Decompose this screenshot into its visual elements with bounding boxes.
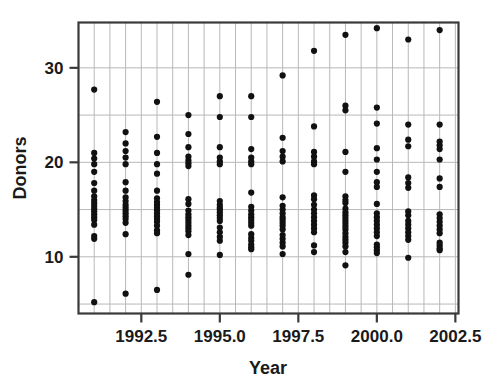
data-point <box>91 188 97 194</box>
data-point <box>248 146 254 152</box>
data-point <box>311 161 317 167</box>
data-point <box>154 150 160 156</box>
data-point <box>405 237 411 243</box>
data-point <box>342 149 348 155</box>
data-point <box>154 230 160 236</box>
data-point <box>405 185 411 191</box>
x-tick-label: 2002.5 <box>429 327 481 346</box>
data-point <box>374 104 380 110</box>
data-point <box>248 223 254 229</box>
data-point <box>437 175 443 181</box>
x-tick-label: 1995.0 <box>194 327 246 346</box>
data-point <box>123 129 129 135</box>
data-point <box>217 238 223 244</box>
data-point <box>185 163 191 169</box>
x-tick-label: 1997.5 <box>272 327 324 346</box>
data-point <box>123 140 129 146</box>
data-point <box>154 188 160 194</box>
data-point <box>123 161 129 167</box>
data-point <box>311 249 317 255</box>
data-point <box>374 145 380 151</box>
data-point <box>374 156 380 162</box>
data-point <box>185 251 191 257</box>
data-point <box>311 48 317 54</box>
data-point <box>437 247 443 253</box>
data-point <box>280 226 286 232</box>
plot-canvas: 1992.51995.01997.52000.02002.5102030 Yea… <box>0 0 499 383</box>
data-point <box>91 86 97 92</box>
data-point <box>185 272 191 278</box>
data-point <box>405 137 411 143</box>
data-point <box>185 201 191 207</box>
data-point <box>342 243 348 249</box>
data-point <box>123 188 129 194</box>
y-tick-label: 20 <box>45 153 64 172</box>
data-point <box>154 287 160 293</box>
data-point <box>248 246 254 252</box>
data-point <box>123 155 129 161</box>
data-point <box>405 121 411 127</box>
data-point <box>280 135 286 141</box>
x-tick-label: 2000.0 <box>351 327 403 346</box>
data-point <box>374 169 380 175</box>
data-point <box>405 143 411 149</box>
data-point <box>123 231 129 237</box>
data-point <box>342 200 348 206</box>
data-point <box>374 184 380 190</box>
data-point <box>248 189 254 195</box>
data-point <box>154 99 160 105</box>
data-point <box>217 144 223 150</box>
data-point <box>405 36 411 42</box>
data-point <box>217 218 223 224</box>
y-tick-label: 10 <box>45 248 64 267</box>
data-point <box>437 146 443 152</box>
data-point <box>91 161 97 167</box>
data-point <box>280 194 286 200</box>
y-tick-label: 30 <box>45 59 64 78</box>
data-point <box>405 255 411 261</box>
data-point <box>374 201 380 207</box>
data-point <box>91 236 97 242</box>
data-point <box>185 112 191 118</box>
data-point <box>154 161 160 167</box>
data-point <box>91 299 97 305</box>
data-point <box>217 161 223 167</box>
data-point <box>217 252 223 258</box>
x-axis-title: Year <box>249 358 287 378</box>
data-point <box>217 93 223 99</box>
data-point <box>437 156 443 162</box>
data-point <box>280 251 286 257</box>
data-point <box>280 72 286 78</box>
data-point <box>123 148 129 154</box>
data-point <box>405 212 411 218</box>
data-point <box>374 120 380 126</box>
data-point <box>91 169 97 175</box>
data-point <box>123 220 129 226</box>
data-point <box>437 27 443 33</box>
data-point <box>342 32 348 38</box>
data-point <box>280 158 286 164</box>
data-point <box>311 123 317 129</box>
data-point <box>311 242 317 248</box>
data-point <box>280 243 286 249</box>
data-point <box>437 230 443 236</box>
data-point <box>91 222 97 228</box>
data-point <box>405 174 411 180</box>
data-point <box>123 179 129 185</box>
data-point <box>342 169 348 175</box>
data-point <box>437 121 443 127</box>
data-point <box>91 155 97 161</box>
x-tick-label: 1992.5 <box>115 327 167 346</box>
data-point <box>217 114 223 120</box>
data-point <box>437 184 443 190</box>
data-point <box>374 25 380 31</box>
data-point <box>154 134 160 140</box>
data-point <box>248 114 254 120</box>
data-point <box>91 150 97 156</box>
data-point <box>185 131 191 137</box>
data-point <box>342 262 348 268</box>
data-point <box>123 291 129 297</box>
data-point <box>342 107 348 113</box>
data-point <box>374 233 380 239</box>
data-point <box>185 144 191 150</box>
